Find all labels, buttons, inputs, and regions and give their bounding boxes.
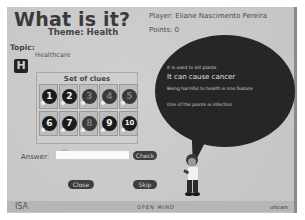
player-name: Player: Eliane Nascimento Pereira	[149, 12, 267, 20]
topic-value: Healthcare	[35, 51, 70, 59]
dot-icon	[41, 128, 45, 132]
dot-icon	[101, 101, 105, 105]
clue-button-5[interactable]: 5	[119, 84, 138, 109]
clue-button-2[interactable]: 2	[59, 84, 78, 109]
dot-icon	[81, 128, 85, 132]
clue-button-6[interactable]: 6	[39, 111, 58, 136]
dot-icon	[101, 128, 105, 132]
close-button[interactable]: Close	[68, 180, 94, 189]
clue-button-3[interactable]: 3	[79, 84, 98, 109]
clue-button-1[interactable]: 1	[39, 84, 58, 109]
clue-button-7[interactable]: 7	[59, 111, 78, 136]
speech-bubble	[155, 35, 295, 147]
revealed-clue-3: Being harmful to health is one feature	[167, 86, 253, 91]
answer-label: Answer:	[21, 153, 49, 161]
skip-button[interactable]: Skip	[133, 180, 157, 189]
dot-icon	[41, 101, 45, 105]
clues-title: Set of clues	[37, 75, 137, 83]
topic-label: Topic:	[10, 43, 35, 52]
character-mascot-icon	[180, 150, 210, 200]
clue-button-10[interactable]: 10	[119, 111, 138, 136]
dot-icon	[81, 101, 85, 105]
dot-icon	[121, 101, 125, 105]
points-counter: Points: 0	[149, 26, 179, 34]
theme-label: Theme: Health	[48, 27, 118, 37]
clue-button-9[interactable]: 9	[99, 111, 118, 136]
dot-icon	[61, 128, 65, 132]
clue-button-4[interactable]: 4	[99, 84, 118, 109]
dot-icon	[61, 101, 65, 105]
topic-letter-tile: H	[14, 59, 28, 73]
footer-logo-center: OPEN MIND	[137, 204, 175, 210]
dot-icon	[121, 128, 125, 132]
clues-panel: Set of clues 1 2 3 4 5 6 7 8 9 10	[36, 72, 138, 144]
clue-grid: 1 2 3 4 5 6 7 8 9 10	[39, 84, 138, 136]
footer-bar: ISA OPEN MIND ufscam	[7, 201, 294, 212]
answer-input[interactable]	[56, 151, 129, 159]
revealed-clue-2: It can cause cancer	[167, 73, 235, 81]
clue-button-8[interactable]: 8	[79, 111, 98, 136]
footer-logo-right: ufscam	[270, 204, 288, 210]
footer-logo-left: ISA	[15, 202, 28, 211]
revealed-clue-1: It is used to kill plants	[167, 65, 216, 70]
revealed-clue-4: One of the points is infection	[167, 102, 232, 107]
check-button[interactable]: Check	[133, 151, 157, 160]
